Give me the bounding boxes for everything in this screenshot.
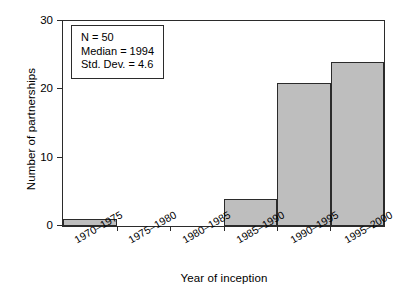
histogram-figure: Number of partnerships 0 10 20 30 [0, 0, 415, 294]
bar-bin-1995-2000 [331, 21, 385, 226]
stat-stddev: Std. Dev. = 4.6 [81, 58, 154, 72]
bar-bin-1990-1995 [277, 21, 331, 226]
stat-median: Median = 1994 [81, 45, 154, 59]
bar[interactable] [277, 83, 331, 227]
bar-bin-1980-1985 [170, 21, 224, 226]
y-tick-label-10: 10 [40, 151, 53, 163]
y-axis-title: Number of partnerships [25, 44, 37, 214]
stat-n: N = 50 [81, 31, 154, 45]
y-tick-label-30: 30 [40, 14, 53, 26]
bar-bin-1985-1990 [224, 21, 278, 226]
x-axis-title: Year of inception [62, 272, 386, 284]
x-tick-labels: 1970–1975 1975–1980 1980–1985 1985–1990 … [62, 227, 385, 273]
y-tick-label-20: 20 [40, 82, 53, 94]
statistics-box: N = 50 Median = 1994 Std. Dev. = 4.6 [71, 25, 164, 79]
bar[interactable] [331, 62, 385, 226]
y-tick-label-0: 0 [47, 219, 53, 231]
